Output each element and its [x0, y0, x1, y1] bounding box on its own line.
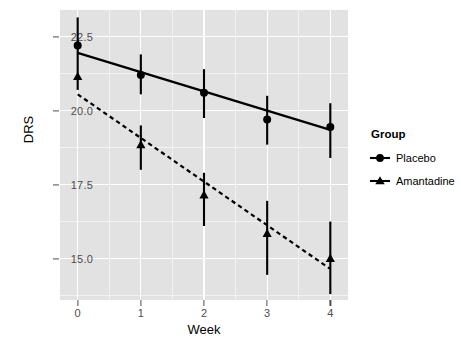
chart-figure: 22.520.017.515.0 01234 Week DRS Group Pl… — [0, 0, 461, 359]
x-axis-tick-label: 1 — [138, 307, 144, 319]
legend-items: PlaceboAmantadine — [369, 149, 461, 190]
circle-marker-icon — [369, 149, 391, 167]
data-point-triangle — [326, 254, 335, 262]
data-point-circle — [200, 89, 208, 97]
x-axis-tick-mark — [77, 300, 78, 306]
legend: Group PlaceboAmantadine — [369, 128, 461, 195]
x-axis-tick-label: 0 — [75, 307, 81, 319]
data-point-triangle — [199, 190, 208, 198]
legend-item-label: Placebo — [396, 152, 436, 164]
y-axis-tick-mark — [53, 110, 59, 111]
x-axis-tick-mark — [330, 300, 331, 306]
data-point-circle — [326, 123, 334, 131]
x-axis-tick-mark — [203, 300, 204, 306]
triangle-marker-icon — [369, 172, 391, 190]
data-point-triangle — [73, 72, 82, 80]
legend-item-amantadine: Amantadine — [369, 172, 461, 190]
x-axis-tick-mark — [140, 300, 141, 306]
data-point-circle — [137, 71, 145, 79]
y-axis-tick-mark — [53, 258, 59, 259]
y-axis-title: DRS — [21, 90, 36, 170]
legend-title: Group — [371, 128, 461, 140]
legend-item-placebo: Placebo — [369, 149, 461, 167]
legend-key-circle — [376, 154, 384, 162]
x-axis-tick-label: 2 — [201, 307, 207, 319]
x-axis-tick-mark — [267, 300, 268, 306]
x-axis-tick-label: 3 — [264, 307, 270, 319]
x-axis-title: Week — [60, 322, 348, 337]
data-series-layer — [60, 10, 348, 300]
x-axis-tick-label: 4 — [327, 307, 333, 319]
y-axis-tick-mark — [53, 36, 59, 37]
y-axis-tick-mark — [53, 184, 59, 185]
data-point-triangle — [263, 229, 272, 237]
legend-item-label: Amantadine — [396, 175, 455, 187]
data-point-circle — [263, 115, 271, 123]
